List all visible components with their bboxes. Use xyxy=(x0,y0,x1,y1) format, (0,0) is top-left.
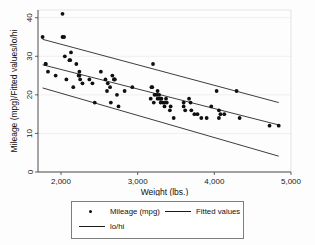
svg-text:2,000: 2,000 xyxy=(51,177,72,186)
legend-label-lo-hi: lo/hi xyxy=(110,222,124,231)
chart-screenshot: 0102030402,0003,0004,0005,000Weight (lbs… xyxy=(0,0,315,245)
legend-marker-band-line-icon xyxy=(78,221,106,232)
legend-item-lo-hi: lo/hi xyxy=(78,221,124,232)
scatter-plot-svg: 0102030402,0003,0004,0005,000Weight (lbs… xyxy=(0,0,315,196)
legend-item-mileage: Mileage (mpg) xyxy=(78,206,160,217)
svg-text:5,000: 5,000 xyxy=(281,177,302,186)
svg-text:3,000: 3,000 xyxy=(128,177,149,186)
chart-legend: Mileage (mpg) Fitted values lo/hi xyxy=(71,201,244,239)
svg-text:20: 20 xyxy=(25,90,34,99)
svg-text:Weight (lbs.): Weight (lbs.) xyxy=(141,187,189,196)
legend-item-fitted-values: Fitted values xyxy=(164,206,240,217)
svg-text:4,000: 4,000 xyxy=(204,177,225,186)
legend-label-fitted-values: Fitted values xyxy=(196,207,240,216)
legend-marker-line-icon xyxy=(164,206,192,217)
svg-text:10: 10 xyxy=(25,128,34,137)
legend-label-mileage: Mileage (mpg) xyxy=(110,207,160,216)
plot-area: 0102030402,0003,0004,0005,000Weight (lbs… xyxy=(0,0,315,196)
svg-text:30: 30 xyxy=(25,51,34,60)
svg-text:0: 0 xyxy=(26,169,35,174)
svg-text:40: 40 xyxy=(26,13,35,22)
svg-text:Mileage (mpg)/Fitted values/lo: Mileage (mpg)/Fitted values/lo/hi xyxy=(9,29,19,152)
legend-marker-dot-icon xyxy=(78,206,106,217)
